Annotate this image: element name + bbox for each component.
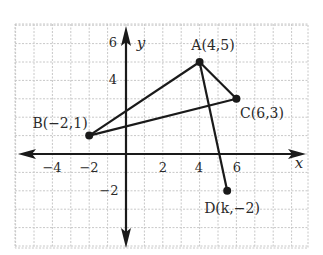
graph-canvas: −4 −2 2 4 6 6 4 −2 x y A(4,5) B(−2,1) C(… [0,0,323,255]
x-axis-label: x [295,154,304,172]
grid-lines [15,24,308,248]
point-label-b: B(−2,1) [32,115,87,131]
coordinate-plane-figure: −4 −2 2 4 6 6 4 −2 x y A(4,5) B(−2,1) C(… [0,0,323,255]
y-tick-label: −2 [99,183,118,198]
y-axis-label: y [136,34,146,52]
x-axis [18,149,306,159]
x-tick-label: 4 [195,160,203,175]
point-c-dot-icon [232,95,240,103]
x-tick-label: 6 [233,160,241,175]
segment-ad [200,62,228,191]
point-b-dot-icon [85,132,93,140]
point-label-c: C(6,3) [240,105,284,121]
point-label-d: D(k,−2) [204,200,260,216]
x-tick-label: −2 [79,160,98,175]
point-label-a: A(4,5) [190,37,234,53]
x-tick-label: −4 [42,160,61,175]
y-tick-label: 6 [109,35,117,50]
x-tick-label: 2 [159,160,167,175]
y-tick-label: 4 [109,72,117,87]
y-axis [121,26,131,248]
point-a-dot-icon [196,58,204,66]
point-d-dot-icon [223,187,231,195]
